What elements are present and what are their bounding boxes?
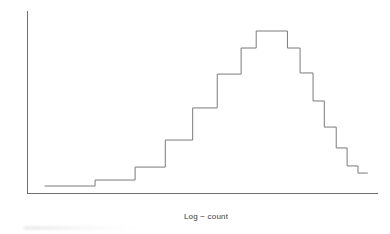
x-axis-label: Log − count	[0, 212, 390, 221]
scan-artifact	[24, 226, 142, 230]
figure-canvas: Probability Log − count	[0, 0, 390, 234]
chart-plot-area	[0, 0, 390, 234]
histogram-step-curve	[45, 31, 368, 186]
x-axis-label-text: Log − count	[162, 212, 228, 221]
y-axis-label: Probability	[3, 62, 17, 172]
